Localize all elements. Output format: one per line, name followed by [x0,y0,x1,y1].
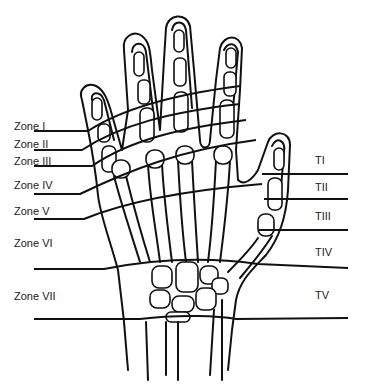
zone-label-2: Zone II [14,139,48,150]
zone-label-4: Zone IV [14,180,53,191]
thumb-zone-label-4: TIV [315,247,332,258]
thumb-zone-label-5: TV [315,290,329,301]
hand-zones-diagram: Zone I Zone II Zone III Zone IV Zone V Z… [0,0,365,389]
thumb-zone-label-1: TI [315,155,325,166]
zone-label-6: Zone VI [14,238,53,249]
thumb-zone-label-3: TIII [315,211,331,222]
zone-label-7: Zone VII [14,291,56,302]
hand-outline-drawing [0,0,365,389]
zone-label-5: Zone V [14,206,49,217]
zone-label-3: Zone III [14,156,51,167]
zone-label-1: Zone I [14,121,45,132]
thumb-zone-label-2: TII [315,182,328,193]
